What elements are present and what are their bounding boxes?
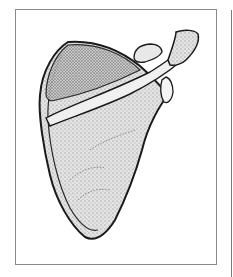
acromion [168,30,198,65]
coracoid [134,44,162,62]
glenoid [161,77,173,103]
scapula-illustration [0,0,233,277]
